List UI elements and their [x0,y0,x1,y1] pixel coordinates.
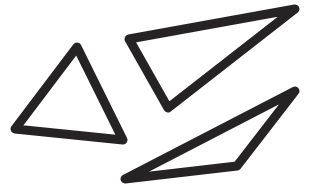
triangle-upper-right [129,9,295,108]
triangles-diagram [0,0,310,196]
triangle-lower-right [125,91,295,179]
triangle-left [15,47,123,140]
